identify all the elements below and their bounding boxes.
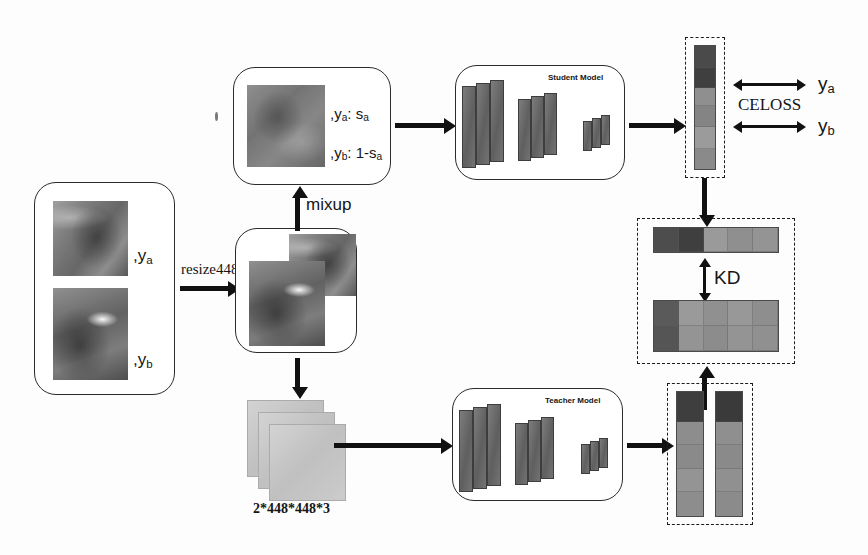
target-label-a: ya — [818, 74, 835, 96]
celoss-arrow-a-head-right — [797, 79, 806, 91]
celoss-arrow-a-head-left — [733, 79, 742, 91]
pair-image-front — [249, 261, 325, 346]
teacher-conv-slab — [473, 407, 487, 489]
diagram-canvas: ,ya ,yb resize448 mixup ,ya: sa ,yb: 1-s… — [0, 0, 868, 555]
pair-to-patch-arrow-line — [295, 358, 300, 390]
distribution-cell — [728, 326, 753, 351]
teacher-to-kd-arrow-head — [699, 366, 715, 378]
teacher-input-arrow-line — [334, 443, 444, 448]
logit-segment — [695, 46, 715, 68]
kd-arrow-line — [703, 266, 706, 294]
teacher-logits-bar-a — [676, 391, 704, 517]
resize-arrow-line — [180, 286, 230, 291]
student-conv-slab — [531, 96, 544, 158]
mixup-weight-a: ,ya: sa — [330, 106, 369, 123]
teacher-conv-slab — [459, 410, 473, 492]
student-conv-slab — [490, 80, 504, 162]
student-model-label: Student Model — [548, 74, 603, 82]
distribution-cell — [679, 228, 704, 252]
student-output-arrow-line — [629, 123, 677, 128]
target-label-b: yb — [818, 116, 835, 138]
celoss-arrow-b-line — [741, 125, 799, 128]
teacher-fc-slab — [590, 441, 599, 471]
logit-segment — [677, 445, 703, 469]
distribution-cell — [704, 301, 729, 326]
distribution-cell — [704, 326, 729, 351]
teacher-fc-slab — [599, 438, 608, 468]
kd-teacher-distribution — [653, 300, 779, 352]
distribution-cell — [753, 301, 778, 326]
teacher-model-label: Teacher Model — [545, 397, 600, 405]
kd-label: KD — [714, 268, 740, 287]
student-conv-slab — [462, 86, 476, 168]
logit-segment — [677, 492, 703, 516]
student-conv-slab — [518, 99, 531, 161]
teacher-logits-bar-b — [715, 391, 743, 517]
logit-segment — [677, 469, 703, 493]
scan-speck — [215, 112, 218, 121]
logit-segment — [695, 149, 715, 169]
logit-segment — [716, 392, 742, 422]
mixup-weight-b: ,yb: 1-sa — [330, 145, 382, 162]
distribution-cell — [654, 228, 679, 252]
distribution-cell — [704, 228, 729, 252]
source-label-a: ,ya — [133, 247, 153, 266]
distribution-cell — [679, 301, 704, 326]
kd-arrow-head-up — [699, 258, 711, 267]
student-to-kd-arrow-line — [702, 178, 707, 218]
student-input-arrow-line — [395, 123, 447, 128]
logit-segment — [695, 88, 715, 106]
logit-segment — [677, 422, 703, 446]
logit-segment — [695, 106, 715, 126]
mixup-result-image — [247, 85, 325, 167]
teacher-fc-slab — [581, 444, 590, 474]
teacher-output-arrow-line — [627, 443, 665, 448]
student-fc-slab — [583, 121, 592, 151]
logit-segment — [716, 492, 742, 516]
patch-front — [269, 424, 346, 501]
source-label-b: ,yb — [133, 351, 153, 370]
celoss-arrow-b-head-right — [797, 121, 806, 133]
student-fc-slab — [592, 118, 601, 148]
student-conv-slab — [544, 93, 557, 155]
logit-segment — [695, 127, 715, 149]
mixup-arrow-line — [295, 195, 300, 231]
kd-student-distribution — [653, 227, 779, 253]
logit-segment — [716, 445, 742, 469]
celoss-arrow-b-head-left — [733, 121, 742, 133]
logit-segment — [695, 68, 715, 88]
source-image-b — [53, 288, 128, 380]
distribution-cell — [728, 228, 753, 252]
source-image-a — [53, 201, 128, 276]
teacher-conv-slab — [515, 423, 528, 485]
distribution-cell — [679, 326, 704, 351]
teacher-conv-slab — [541, 417, 554, 479]
resize-label: resize448 — [181, 262, 238, 277]
patch-caption: 2*448*448*3 — [253, 502, 330, 516]
teacher-conv-slab — [487, 404, 501, 486]
teacher-conv-slab — [528, 420, 541, 482]
celoss-arrow-a-line — [741, 83, 799, 86]
logit-segment — [677, 392, 703, 422]
logit-segment — [716, 469, 742, 493]
student-logits-bar — [694, 45, 716, 170]
pair-to-patch-arrow-head — [292, 387, 308, 399]
distribution-cell — [753, 228, 778, 252]
celoss-label: CELOSS — [738, 96, 801, 113]
distribution-cell — [728, 301, 753, 326]
distribution-cell — [654, 301, 679, 326]
student-conv-slab — [476, 83, 490, 165]
mixup-label: mixup — [306, 196, 351, 213]
distribution-cell — [753, 326, 778, 351]
logit-segment — [716, 422, 742, 446]
student-fc-slab — [601, 115, 610, 145]
distribution-cell — [654, 326, 679, 351]
